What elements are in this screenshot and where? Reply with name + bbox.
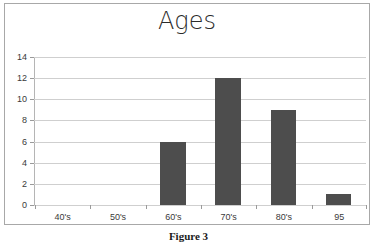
y-axis-tick-label: 14 xyxy=(17,52,27,62)
bar-slot xyxy=(90,57,145,205)
bar xyxy=(271,110,296,205)
y-axis-tick-label: 8 xyxy=(22,115,27,125)
x-axis-tick-mark xyxy=(35,205,36,209)
y-axis-tick-label: 10 xyxy=(17,94,27,104)
bar-slot xyxy=(145,57,200,205)
x-axis-tick-mark xyxy=(256,205,257,209)
x-axis-tick-mark xyxy=(312,205,313,209)
x-axis-tick-slot xyxy=(35,205,90,210)
y-axis-tick-label: 6 xyxy=(22,137,27,147)
bar-slot xyxy=(256,57,311,205)
bar-slot xyxy=(201,57,256,205)
chart-title: Ages xyxy=(5,6,369,36)
y-axis-tick-label: 2 xyxy=(22,179,27,189)
x-axis-label: 80's xyxy=(256,212,311,222)
x-axis-label: 50's xyxy=(90,212,145,222)
y-axis-tick-label: 4 xyxy=(22,158,27,168)
x-axis-label: 70's xyxy=(201,212,256,222)
x-axis-label: 40's xyxy=(35,212,90,222)
bars-group xyxy=(35,57,366,205)
bar xyxy=(160,142,185,205)
plot-area: 14121086420 xyxy=(34,57,366,205)
bar xyxy=(215,78,240,205)
y-axis-tick-mark xyxy=(30,120,34,121)
x-axis-tick-mark xyxy=(146,205,147,209)
y-axis-tick-label: 12 xyxy=(17,73,27,83)
y-axis-tick-mark xyxy=(30,163,34,164)
y-axis-tick-mark xyxy=(30,78,34,79)
y-axis-tick-mark xyxy=(30,205,34,206)
x-axis-labels-group: 40's50's60's70's80's95 xyxy=(35,212,367,222)
x-axis-tick-slot xyxy=(90,205,145,210)
bar xyxy=(326,194,351,205)
x-axis-tick-end xyxy=(366,205,367,209)
y-axis-tick-label: 0 xyxy=(22,200,27,210)
y-axis-tick-mark xyxy=(30,184,34,185)
bar-slot xyxy=(311,57,366,205)
chart-frame: Ages 14121086420 40's50's60's70's80's95 xyxy=(4,3,370,225)
figure-caption: Figure 3 xyxy=(0,230,377,242)
x-axis-label: 60's xyxy=(146,212,201,222)
x-axis-label: 95 xyxy=(312,212,367,222)
y-axis-tick-mark xyxy=(30,142,34,143)
x-axis-tick-mark xyxy=(201,205,202,209)
y-axis-tick-mark xyxy=(30,99,34,100)
bar-slot xyxy=(35,57,90,205)
x-axis-ticks-group xyxy=(35,205,367,210)
x-axis-tick-slot xyxy=(201,205,256,210)
y-axis-tick-mark xyxy=(30,57,34,58)
x-axis-tick-slot xyxy=(146,205,201,210)
x-axis-tick-mark xyxy=(90,205,91,209)
x-axis-tick-slot xyxy=(312,205,367,210)
x-axis-tick-slot xyxy=(256,205,311,210)
